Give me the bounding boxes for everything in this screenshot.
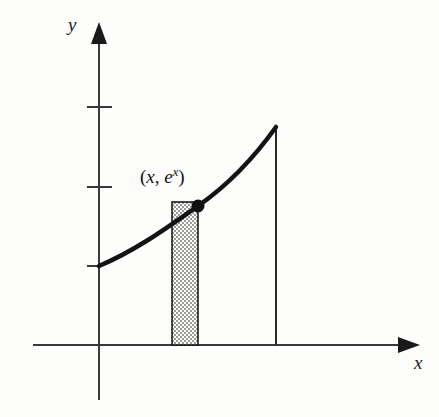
diagram-canvas xyxy=(0,0,439,417)
y-axis xyxy=(87,22,112,400)
x-axis-label: x xyxy=(414,352,422,374)
x-axis-arrowhead-icon xyxy=(398,337,420,353)
point-label-base: e xyxy=(164,166,172,187)
x-axis xyxy=(33,337,420,353)
point-label-close-paren: ) xyxy=(178,166,184,187)
point-label-comma: , xyxy=(155,166,165,187)
curve-point-marker xyxy=(192,200,205,213)
figure-exponential-rectangle: y x (x, ex) xyxy=(0,0,439,417)
curve-point-label: (x, ex) xyxy=(140,166,185,188)
y-axis-arrowhead-icon xyxy=(91,22,107,44)
point-label-x: x xyxy=(146,166,154,187)
y-axis-label: y xyxy=(68,14,76,36)
